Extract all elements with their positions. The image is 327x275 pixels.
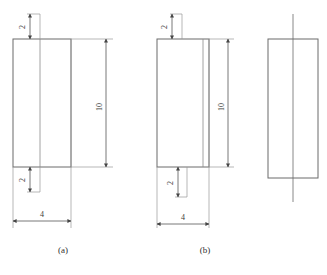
figure-c-group [268,14,318,202]
figure-a-top-notch-label: 2 [18,25,27,29]
figure-a-group: 10 2 2 4 (a) [13,14,113,255]
technical-drawing-canvas: 10 2 2 4 (a) [0,0,327,275]
figure-b-bottom-notch-label: 2 [166,181,175,185]
figure-b-caption: (b) [200,245,211,255]
figure-a-body-rect [13,39,71,167]
figure-b-width-label: 4 [181,213,185,222]
figure-b-body-rect [157,39,209,167]
figure-a-bottom-notch-label: 2 [18,178,27,182]
figure-b-group: 10 2 2 4 (b) [157,14,234,255]
figure-b-height-label: 10 [217,103,226,111]
engineering-drawing: 10 2 2 4 (a) [0,0,327,275]
figure-a-caption: (a) [58,245,68,255]
figure-a-width-label: 4 [40,210,44,219]
figure-b-top-notch-label: 2 [160,25,169,29]
figure-a-height-label: 10 [95,103,104,111]
